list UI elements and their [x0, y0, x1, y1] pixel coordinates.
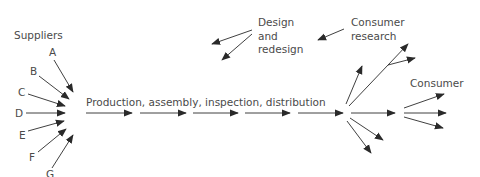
- supplier-a-label: A: [49, 46, 56, 59]
- supplier-g-label: G: [46, 168, 54, 177]
- supplier-f-label: F: [29, 151, 35, 164]
- disperse-arrow-up3: [388, 58, 415, 65]
- supplier-f-arrow: [38, 129, 66, 152]
- supplier-e-arrow: [28, 121, 64, 131]
- suppliers-label: Suppliers: [14, 29, 63, 42]
- consumer-label: Consumer: [410, 77, 464, 90]
- supplier-e-label: E: [19, 129, 26, 142]
- supplier-c-arrow: [28, 94, 65, 106]
- supplier-d-label: D: [15, 107, 23, 120]
- supplier-b-arrow: [39, 76, 69, 99]
- consumer-arrow-1: [404, 94, 444, 108]
- supply-chain-diagram: Suppliers A B C D E F G Production, asse…: [0, 0, 480, 177]
- design-arrow-2: [222, 34, 252, 60]
- supplier-a-arrow: [54, 60, 73, 92]
- supplier-c-label: C: [18, 86, 25, 99]
- consumer-arrow-3: [404, 117, 443, 128]
- design-label-3: redesign: [258, 43, 303, 56]
- supplier-b-label: B: [30, 65, 37, 78]
- research-label-1: Consumer: [351, 16, 405, 29]
- design-label-1: Design: [258, 16, 294, 29]
- disperse-arrow-down2: [347, 121, 371, 153]
- supplier-g-arrow: [52, 135, 73, 168]
- disperse-arrow-up1: [346, 66, 362, 104]
- design-label-2: and: [258, 30, 278, 43]
- disperse-arrow-down1: [350, 118, 383, 140]
- process-label: Production, assembly, inspection, distri…: [86, 96, 326, 109]
- research-arrow: [318, 29, 344, 40]
- arrows-layer: [0, 0, 480, 177]
- design-arrow-1: [212, 30, 252, 44]
- research-label-2: research: [351, 30, 396, 43]
